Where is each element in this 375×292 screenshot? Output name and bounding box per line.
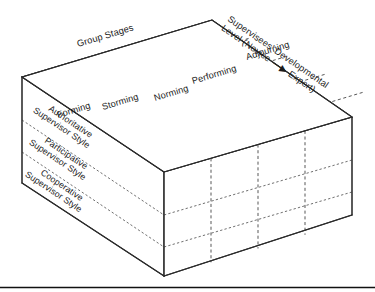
- label-group-stages: Group Stages: [76, 22, 135, 48]
- isometric-cube-diagram: Group Stages Supervisees' Developmental …: [0, 0, 375, 292]
- top-face-mask: [352, 96, 368, 117]
- supervision-cube-figure: Group Stages Supervisees' Developmental …: [0, 0, 375, 292]
